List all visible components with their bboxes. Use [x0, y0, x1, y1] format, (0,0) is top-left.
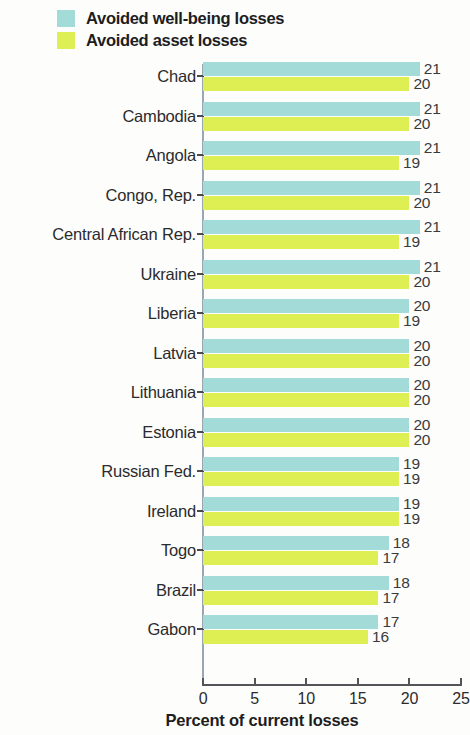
bar-wellbeing: [203, 418, 409, 432]
x-axis-line: [203, 684, 461, 686]
bar-value-label: 18: [393, 576, 410, 590]
category-label: Estonia: [142, 418, 196, 447]
x-axis-tick: [460, 678, 462, 686]
bar-wellbeing: [203, 220, 420, 234]
bar-wellbeing: [203, 62, 420, 76]
bar-asset: [203, 275, 409, 289]
bar-value-label: 16: [372, 630, 389, 644]
bar-asset: [203, 156, 399, 170]
bar-value-label: 20: [413, 117, 430, 131]
bar-value-label: 17: [382, 591, 399, 605]
legend-label-asset: Avoided asset losses: [86, 32, 247, 49]
bar-value-label: 20: [413, 275, 430, 289]
bar-group: Latvia2020: [0, 339, 469, 368]
bar-wellbeing: [203, 181, 420, 195]
bar-group: Cambodia2120: [0, 102, 469, 131]
bar-asset: [203, 472, 399, 486]
bar-wellbeing: [203, 615, 378, 629]
bar-value-label: 19: [403, 457, 420, 471]
category-label: Lithuania: [131, 378, 196, 407]
bar-value-label: 19: [403, 472, 420, 486]
category-label: Angola: [146, 141, 196, 170]
bar-value-label: 20: [413, 378, 430, 392]
bar-value-label: 19: [403, 235, 420, 249]
bar-wellbeing: [203, 339, 409, 353]
bar-wellbeing: [203, 457, 399, 471]
bar-wellbeing: [203, 102, 420, 116]
x-axis-tick: [254, 678, 256, 686]
category-label: Chad: [157, 62, 196, 91]
bar-value-label: 21: [424, 62, 441, 76]
bar-asset: [203, 393, 409, 407]
legend-swatch-asset: [57, 32, 75, 49]
x-axis-tick-label: 25: [452, 690, 469, 708]
category-label: Gabon: [147, 615, 196, 644]
plot-area: Chad2120Cambodia2120Angola2119Congo, Rep…: [0, 62, 469, 687]
bar-asset: [203, 551, 378, 565]
bar-group: Brazil1817: [0, 576, 469, 605]
legend-item-wellbeing: Avoided well-being losses: [57, 8, 457, 28]
bar-wellbeing: [203, 299, 409, 313]
bar-asset: [203, 235, 399, 249]
bar-asset: [203, 117, 409, 131]
bar-group: Angola2119: [0, 141, 469, 170]
bar-group: Central African Rep.2119: [0, 220, 469, 249]
category-label: Brazil: [156, 576, 196, 605]
legend-item-asset: Avoided asset losses: [57, 30, 457, 50]
bar-value-label: 19: [403, 156, 420, 170]
x-axis-tick: [305, 678, 307, 686]
legend-swatch-wellbeing: [57, 10, 75, 27]
bar-value-label: 20: [413, 339, 430, 353]
bar-wellbeing: [203, 378, 409, 392]
bar-value-label: 21: [424, 181, 441, 195]
bar-wellbeing: [203, 536, 389, 550]
bar-asset: [203, 591, 378, 605]
bar-group: Gabon1716: [0, 615, 469, 644]
bar-wellbeing: [203, 576, 389, 590]
bar-value-label: 20: [413, 433, 430, 447]
category-label: Latvia: [153, 339, 196, 368]
bar-group: Ukraine2120: [0, 260, 469, 289]
category-label: Russian Fed.: [101, 457, 196, 486]
x-axis-tick: [202, 678, 204, 686]
bar-value-label: 19: [403, 512, 420, 526]
bar-asset: [203, 196, 409, 210]
x-axis-tick: [408, 678, 410, 686]
bar-value-label: 17: [382, 615, 399, 629]
bar-group: Lithuania2020: [0, 378, 469, 407]
x-axis-tick-label: 5: [250, 690, 259, 708]
bar-value-label: 21: [424, 220, 441, 234]
bar-value-label: 21: [424, 260, 441, 274]
bar-value-label: 20: [413, 418, 430, 432]
category-label: Cambodia: [122, 102, 196, 131]
x-axis-tick: [357, 678, 359, 686]
bar-asset: [203, 77, 409, 91]
bar-group: Chad2120: [0, 62, 469, 91]
bar-group: Liberia2019: [0, 299, 469, 328]
bar-group: Congo, Rep.2120: [0, 181, 469, 210]
x-axis-tick-label: 20: [401, 690, 418, 708]
bar-value-label: 19: [403, 497, 420, 511]
bar-group: Ireland1919: [0, 497, 469, 526]
bar-value-label: 20: [413, 299, 430, 313]
bar-value-label: 20: [413, 77, 430, 91]
bar-group: Estonia2020: [0, 418, 469, 447]
bar-wellbeing: [203, 260, 420, 274]
bar-value-label: 21: [424, 102, 441, 116]
x-axis-tick-label: 10: [297, 690, 314, 708]
bar-value-label: 20: [413, 354, 430, 368]
chart-legend: Avoided well-being losses Avoided asset …: [57, 8, 457, 52]
bar-asset: [203, 314, 399, 328]
x-axis-tick-label: 15: [349, 690, 366, 708]
legend-label-wellbeing: Avoided well-being losses: [86, 10, 284, 27]
bar-asset: [203, 433, 409, 447]
bar-wellbeing: [203, 497, 399, 511]
bar-group: Togo1817: [0, 536, 469, 565]
bar-asset: [203, 354, 409, 368]
bar-value-label: 20: [413, 393, 430, 407]
bar-value-label: 18: [393, 536, 410, 550]
category-label: Liberia: [148, 299, 196, 328]
category-label: Congo, Rep.: [106, 181, 196, 210]
bar-value-label: 17: [382, 551, 399, 565]
